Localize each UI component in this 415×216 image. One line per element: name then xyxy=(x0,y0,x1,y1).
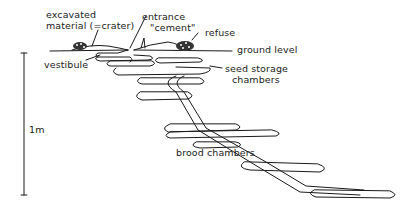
label-brood-chambers: brood chambers xyxy=(176,148,255,158)
scale-bar xyxy=(21,53,27,195)
seed-storage-chamber xyxy=(113,67,210,75)
nest-diagram: excavated material (=crater) entrance "c… xyxy=(0,0,415,216)
refuse-pile-icon xyxy=(176,41,194,51)
crater-soil-icon xyxy=(73,42,87,50)
label-ground-level: ground level xyxy=(237,45,297,55)
label-scale: 1m xyxy=(29,125,45,135)
label-seed-storage-chambers: chambers xyxy=(232,75,280,85)
label-vestibule: vestibule xyxy=(44,60,88,70)
label-cement: "cement" xyxy=(150,23,195,33)
ground-level-line xyxy=(50,50,232,51)
pointer-excavated xyxy=(92,30,98,46)
mid-chamber xyxy=(136,92,192,100)
brood-chamber-5 xyxy=(310,190,395,198)
label-excavated: excavated xyxy=(46,10,96,20)
pointer-refuse xyxy=(192,33,198,40)
label-refuse: refuse xyxy=(205,28,235,38)
main-shaft-left xyxy=(168,76,360,195)
label-entrance: entrance xyxy=(142,12,185,22)
label-crater: material (=crater) xyxy=(46,21,134,31)
label-seed-storage: seed storage xyxy=(225,64,288,74)
vestibule-chamber xyxy=(95,55,152,61)
main-shaft-right xyxy=(177,76,364,190)
pointer-seed xyxy=(210,66,222,68)
upper-chamber-2 xyxy=(155,58,202,63)
